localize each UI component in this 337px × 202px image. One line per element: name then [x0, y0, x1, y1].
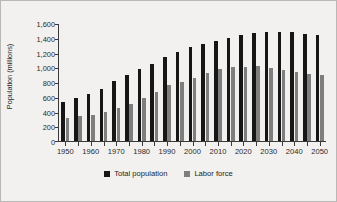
bar-labor-force	[320, 75, 324, 141]
bar-labor-force	[282, 70, 286, 141]
bar-group	[278, 24, 286, 141]
bar-group	[189, 24, 197, 141]
bar-total-population	[316, 35, 320, 141]
x-axis-tick-label: 2050	[311, 147, 328, 156]
bar-labor-force	[269, 68, 273, 141]
x-axis-tick-labels: 1950196019701980199020002010202020302040…	[58, 147, 326, 161]
x-axis-tick-mark	[307, 142, 308, 146]
bar-group	[201, 24, 209, 141]
x-axis-tick-mark	[269, 142, 270, 146]
y-axis-tick-label: 1,000	[17, 64, 55, 73]
bar-total-population	[290, 32, 294, 141]
bar-total-population	[150, 64, 154, 141]
bar-total-population	[227, 38, 231, 141]
x-axis-tick-label: 1980	[133, 147, 150, 156]
x-axis-tick-mark	[154, 142, 155, 146]
bar-group	[100, 24, 108, 141]
bar-total-population	[176, 52, 180, 141]
y-axis-tick-label: 1,600	[17, 20, 55, 29]
y-axis-tick-mark	[55, 113, 59, 114]
legend-item-total[interactable]: Total population	[104, 169, 167, 178]
bar-group	[214, 24, 222, 141]
bar-group	[87, 24, 95, 141]
bar-group	[74, 24, 82, 141]
bar-group	[112, 24, 120, 141]
bar-labor-force	[66, 118, 70, 141]
bar-total-population	[189, 47, 193, 141]
bar-total-population	[100, 89, 104, 141]
bar-total-population	[278, 32, 282, 141]
bar-total-population	[112, 81, 116, 141]
y-axis-tick-mark	[55, 98, 59, 99]
bar-labor-force	[256, 66, 260, 141]
x-axis-tick-mark	[282, 142, 283, 146]
x-axis-tick-mark	[180, 142, 181, 146]
bar-labor-force	[104, 112, 108, 141]
x-axis-tick-label: 1950	[57, 147, 74, 156]
bar-total-population	[239, 35, 243, 141]
bar-group	[176, 24, 184, 141]
bar-total-population	[138, 69, 142, 141]
x-axis-tick-label: 1970	[108, 147, 125, 156]
bar-total-population	[61, 102, 65, 141]
y-axis-title-text: Population (millions)	[6, 43, 15, 109]
x-axis-tick-mark	[256, 142, 257, 146]
bar-total-population	[87, 94, 91, 141]
bar-labor-force	[295, 72, 299, 141]
y-axis-tick-mark	[55, 39, 59, 40]
y-axis-tick-mark	[55, 54, 59, 55]
legend-swatch-icon	[104, 171, 110, 177]
bar-labor-force	[78, 116, 82, 141]
bar-labor-force	[244, 67, 248, 141]
x-axis-tick-mark	[243, 142, 244, 146]
x-axis-tick-label: 2040	[286, 147, 303, 156]
bar-labor-force	[91, 115, 95, 141]
bar-labor-force	[180, 82, 184, 141]
bar-group	[252, 24, 260, 141]
y-axis-tick-label: 400	[17, 108, 55, 117]
legend-swatch-icon	[184, 171, 190, 177]
bar-group	[265, 24, 273, 141]
bar-labor-force	[117, 108, 121, 141]
bar-group	[150, 24, 158, 141]
y-axis-tick-mark	[55, 83, 59, 84]
legend-label: Total population	[114, 169, 167, 178]
bar-labor-force	[206, 73, 210, 141]
bar-total-population	[303, 34, 307, 141]
x-axis-tick-mark	[205, 142, 206, 146]
bar-group	[163, 24, 171, 141]
bar-group	[125, 24, 133, 141]
bar-total-population	[163, 57, 167, 141]
y-axis-tick-mark	[55, 127, 59, 128]
bar-group	[303, 24, 311, 141]
x-axis-tick-mark	[231, 142, 232, 146]
x-axis-tick-label: 2000	[184, 147, 201, 156]
x-axis-tick-mark	[129, 142, 130, 146]
x-axis-tick-mark	[193, 142, 194, 146]
x-axis-tick-mark	[218, 142, 219, 146]
y-axis-tick-label: 1,200	[17, 49, 55, 58]
x-axis-tick-mark	[78, 142, 79, 146]
y-axis-tick-label: 0	[17, 138, 55, 147]
x-axis-tick-label: 1990	[159, 147, 176, 156]
y-axis-tick-label: 1,400	[17, 34, 55, 43]
legend-label: Labor force	[194, 169, 232, 178]
x-axis-tick-label: 2010	[209, 147, 226, 156]
bar-labor-force	[142, 98, 146, 141]
x-axis-tick-mark	[91, 142, 92, 146]
bar-total-population	[265, 32, 269, 141]
bar-group	[227, 24, 235, 141]
bar-total-population	[201, 44, 205, 141]
chart-legend: Total populationLabor force	[1, 169, 336, 178]
x-axis-tick-label: 1960	[82, 147, 99, 156]
bar-group	[61, 24, 69, 141]
bar-series-container	[59, 24, 326, 141]
y-axis-tick-mark	[55, 24, 59, 25]
x-axis-tick-mark	[167, 142, 168, 146]
bar-labor-force	[193, 78, 197, 141]
bar-labor-force	[155, 92, 159, 141]
bar-total-population	[74, 98, 78, 141]
x-axis-tick-mark	[65, 142, 66, 146]
legend-item-labor[interactable]: Labor force	[184, 169, 232, 178]
bar-total-population	[214, 41, 218, 141]
